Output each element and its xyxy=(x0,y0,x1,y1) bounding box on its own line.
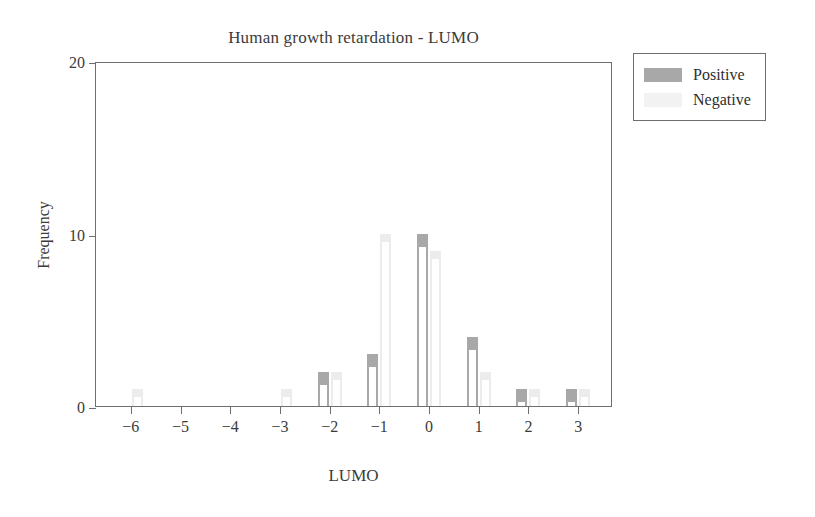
y-tick-label: 0 xyxy=(77,400,85,416)
y-tick-label: 10 xyxy=(69,228,85,244)
y-tick-mark xyxy=(89,408,96,409)
legend-entry-positive[interactable]: Positive xyxy=(644,62,751,87)
x-tick-mark xyxy=(578,406,579,414)
bar-negative-neg1 xyxy=(380,234,391,407)
y-tick-mark xyxy=(89,236,96,237)
x-tick-label: 3 xyxy=(574,419,582,435)
plot-frame: 01020−6−5−4−3−2−10123 xyxy=(95,62,612,407)
x-tick-label: −1 xyxy=(371,419,388,435)
legend-swatch-positive-icon xyxy=(644,68,682,82)
bar-negative-0 xyxy=(430,251,441,406)
plot-area xyxy=(96,63,611,406)
bar-negative-2 xyxy=(529,389,540,406)
bar-negative-neg2 xyxy=(331,372,342,407)
chart-title: Human growth retardation - LUMO xyxy=(95,28,612,48)
bar-negative-3 xyxy=(579,389,590,406)
x-tick-mark xyxy=(181,406,182,414)
x-tick-mark xyxy=(131,406,132,414)
x-tick-mark xyxy=(280,406,281,414)
bar-positive-neg2 xyxy=(318,372,329,407)
legend-label-positive: Positive xyxy=(693,67,745,83)
x-tick-label: −4 xyxy=(222,419,239,435)
chart-legend: Positive Negative xyxy=(633,53,766,121)
bar-negative-neg6 xyxy=(132,389,143,406)
bar-positive-1 xyxy=(467,337,478,406)
x-tick-label: −6 xyxy=(122,419,139,435)
x-tick-label: 1 xyxy=(475,419,483,435)
x-tick-mark xyxy=(528,406,529,414)
y-axis-title: Frequency xyxy=(34,62,54,407)
x-tick-mark xyxy=(379,406,380,414)
x-tick-label: 0 xyxy=(425,419,433,435)
chart-figure: Human growth retardation - LUMO Frequenc… xyxy=(0,0,815,517)
legend-label-negative: Negative xyxy=(693,92,751,108)
x-tick-mark xyxy=(479,406,480,414)
bar-negative-neg3 xyxy=(281,389,292,406)
x-tick-label: −2 xyxy=(321,419,338,435)
bar-positive-0 xyxy=(417,234,428,407)
y-axis-title-label: Frequency xyxy=(35,201,53,269)
x-tick-mark xyxy=(429,406,430,414)
bar-negative-1 xyxy=(480,372,491,407)
bar-positive-neg1 xyxy=(367,354,378,406)
x-tick-mark xyxy=(230,406,231,414)
legend-swatch-negative-icon xyxy=(644,93,682,107)
x-tick-mark xyxy=(330,406,331,414)
y-tick-label: 20 xyxy=(69,55,85,71)
bar-positive-3 xyxy=(566,389,577,406)
legend-entry-negative[interactable]: Negative xyxy=(644,87,751,112)
x-tick-label: −5 xyxy=(172,419,189,435)
x-tick-label: 2 xyxy=(524,419,532,435)
y-tick-mark xyxy=(89,63,96,64)
x-axis-title: LUMO xyxy=(95,466,612,486)
x-tick-label: −3 xyxy=(271,419,288,435)
bar-positive-2 xyxy=(516,389,527,406)
